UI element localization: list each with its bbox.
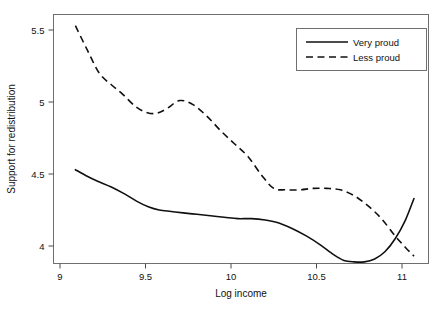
x-tick-label: 10.5	[307, 271, 326, 282]
x-axis-title: Log income	[215, 288, 267, 299]
y-tick-label: 5	[39, 97, 44, 108]
x-axis-tick-labels: 99.51010.511	[57, 271, 407, 282]
series-line-very-proud	[75, 170, 414, 262]
line-chart: 99.51010.511 44.555.5 Log income Support…	[0, 0, 441, 311]
x-axis-ticks	[60, 264, 402, 269]
y-tick-label: 4	[39, 241, 44, 252]
x-tick-label: 9.5	[139, 271, 152, 282]
x-tick-label: 9	[57, 271, 62, 282]
legend-label-very-proud: Very proud	[353, 37, 399, 48]
y-axis-tick-labels: 44.555.5	[31, 25, 44, 252]
chart-legend: Very proud Less proud	[297, 29, 427, 71]
legend-label-less-proud: Less proud	[353, 52, 400, 63]
x-tick-label: 11	[397, 271, 407, 282]
chart-figure: 99.51010.511 44.555.5 Log income Support…	[0, 0, 441, 311]
y-axis-title: Support for redistribution	[6, 84, 17, 194]
y-tick-label: 5.5	[31, 25, 44, 36]
y-axis-ticks	[49, 30, 54, 246]
x-tick-label: 10	[226, 271, 237, 282]
y-tick-label: 4.5	[31, 169, 44, 180]
legend-box	[297, 29, 427, 71]
